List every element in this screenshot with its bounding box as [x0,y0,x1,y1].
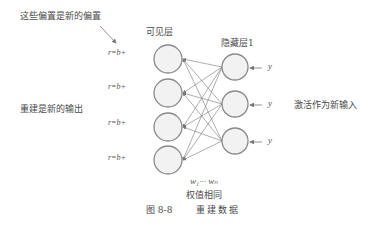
bias-label-2: r=b+ [108,82,126,91]
hidden-node-2 [222,91,248,117]
bias-note: 这些偏置是新的偏置 [20,9,101,22]
input-y-3: y [268,135,272,145]
visible-node-2 [154,79,182,107]
hidden-node-1 [222,54,248,80]
visible-node-1 [154,45,182,73]
shared-weights-label: 权值相同 [186,188,222,201]
bias-label-1: r=b+ [108,48,126,57]
reconstruction-note: 重建是新的输出 [20,102,83,115]
input-y-1: y [268,61,272,71]
weights-math: w₁··· wₙ [190,176,218,186]
figure-number: 图 8-8 [146,203,172,216]
hidden-layer-label: 隐藏层1 [221,36,254,49]
input-y-2: y [268,98,272,108]
visible-node-4 [154,146,182,174]
visible-layer-label: 可见层 [146,25,173,38]
bias-pointer-arrow [100,26,116,43]
visible-node-3 [154,113,182,141]
hidden-node-3 [222,128,248,154]
connection-edges [183,59,222,160]
bias-label-3: r=b+ [108,118,126,127]
activation-note: 激活作为新输入 [294,98,357,111]
figure-title: 重建数据 [196,203,240,216]
bias-label-4: r=b+ [108,153,126,162]
